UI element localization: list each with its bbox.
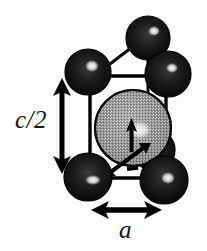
atom-highlight [85, 175, 101, 185]
dimension-label-a: a [119, 217, 132, 242]
atom-corner-top-left [65, 49, 111, 95]
atom-highlight [166, 63, 178, 73]
atom-corner-top-right [145, 51, 191, 97]
dimension-label-c-half: c/2 [15, 107, 47, 132]
atom-corner-bottom-right [140, 156, 188, 204]
vertical-dimension-arrow [53, 78, 71, 174]
figure-container: c/2 a [0, 0, 207, 251]
atom-highlight [148, 26, 160, 36]
atom-highlight [161, 172, 175, 184]
atom-highlight [85, 60, 99, 72]
atom-corner-bottom-left [64, 153, 112, 201]
